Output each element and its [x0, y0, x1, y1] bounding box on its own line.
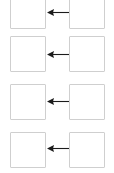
mapping-row — [0, 0, 114, 30]
target-box[interactable] — [69, 36, 105, 72]
mapping-row — [0, 132, 114, 168]
arrow-right-to-left-icon — [47, 50, 69, 59]
arrow-right-to-left-icon — [47, 144, 69, 153]
arrow-right-to-left-icon — [47, 97, 69, 106]
source-box[interactable] — [10, 84, 46, 120]
target-box[interactable] — [69, 84, 105, 120]
source-box[interactable] — [10, 132, 46, 168]
mapping-row — [0, 84, 114, 120]
diagram-canvas — [0, 0, 114, 173]
mapping-row — [0, 36, 114, 72]
source-box[interactable] — [10, 36, 46, 72]
target-box[interactable] — [69, 0, 105, 29]
target-box[interactable] — [69, 132, 105, 168]
arrow-right-to-left-icon — [47, 8, 69, 17]
source-box[interactable] — [10, 0, 46, 29]
